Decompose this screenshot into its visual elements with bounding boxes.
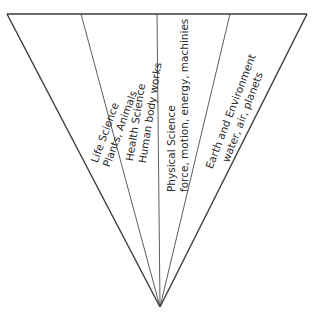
science-branches-diagram: Life Science Plants, Animals Health Scie… — [0, 0, 313, 312]
section-subtitle: force, motion, energy, machinies — [178, 19, 191, 192]
section-title: Physical Science — [165, 19, 178, 192]
section-physical-science: Physical Science force, motion, energy, … — [165, 19, 190, 192]
divider-2 — [157, 14, 160, 307]
triangle-outline — [0, 0, 313, 312]
